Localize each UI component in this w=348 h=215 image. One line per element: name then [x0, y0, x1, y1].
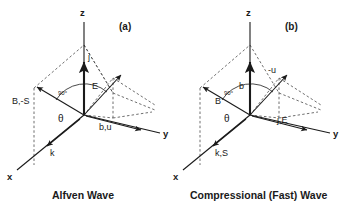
panel-b-axis-y-label: y: [333, 128, 339, 139]
panel-b-angle-90: 90°: [222, 84, 273, 100]
panel-a-vector-b-u: b,u: [86, 116, 141, 132]
panel-b-vector-k-S-label: k,S: [215, 148, 228, 158]
panel-b-vector-b: b: [239, 62, 250, 114]
panel-a-axis-z-label: z: [80, 7, 85, 18]
panel-a-vector-j: j: [84, 52, 90, 114]
panel-b-vector-B-label: B: [215, 96, 221, 106]
panel-b-vector-minus-u-label: -u: [268, 65, 276, 75]
panel-a-vector-j-label: j: [87, 52, 90, 62]
panel-b-axis-z-label: z: [246, 7, 251, 18]
panel-a: z y x j E B,-S k: [7, 7, 169, 201]
panel-a-vector-b-u-label: b,u: [99, 122, 112, 132]
panel-a-caption: Alfven Wave: [52, 189, 114, 201]
panel-b: z y x b -u B k,S: [173, 7, 339, 201]
panel-a-vector-k: k: [47, 119, 80, 158]
panel-b-letter: (b): [285, 21, 298, 32]
panel-b-angle-90-label: 90°: [224, 90, 234, 96]
panel-b-vector-k-S: k,S: [213, 119, 246, 158]
panel-b-caption: Compressional (Fast) Wave: [190, 189, 327, 201]
panel-a-angle-90: 90°: [56, 84, 107, 100]
panel-a-vector-E: E: [84, 75, 121, 115]
mhd-wave-vector-diagram: z y x j E B,-S k: [0, 0, 348, 215]
panel-a-axis-y-label: y: [163, 128, 169, 139]
panel-a-angle-90-label: 90°: [58, 90, 68, 96]
panel-a-vector-k-label: k: [50, 148, 55, 158]
panel-b-vector-j-E-label: j,E: [276, 115, 288, 125]
panel-b-axis-x-label: x: [173, 171, 179, 182]
panel-a-vector-B-S-label: B,-S: [12, 96, 30, 106]
panel-a-construction-lines: [34, 45, 155, 165]
panel-b-angle-theta-label: θ: [224, 113, 230, 124]
panel-a-letter: (a): [119, 21, 131, 32]
panel-b-vector-minus-u: -u: [250, 65, 287, 115]
panel-a-axis-x-label: x: [7, 171, 13, 182]
panel-a-vector-B-S: B,-S: [12, 87, 84, 115]
panel-a-angle-theta-label: θ: [58, 113, 64, 124]
